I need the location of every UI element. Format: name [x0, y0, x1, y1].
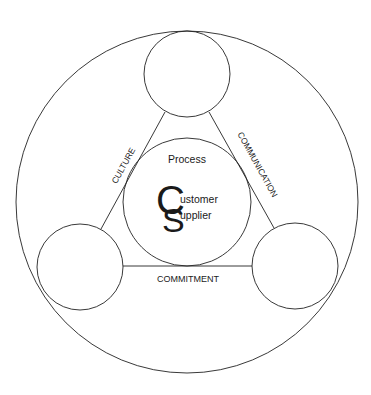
communication-label: COMMUNICATION [236, 130, 280, 199]
right-node-circle [252, 223, 338, 309]
cs-logo: C S ustomer upplier [156, 178, 218, 239]
customer-supplier-diagram: Process C S ustomer upplier CULTURE COMM… [0, 0, 371, 395]
culture-label: CULTURE [109, 146, 137, 186]
left-node-circle [37, 224, 123, 310]
commitment-label: COMMITMENT [157, 274, 219, 284]
logo-supplier-text: upplier [180, 209, 212, 221]
process-label: Process [168, 153, 206, 165]
logo-customer-text: ustomer [180, 193, 218, 205]
top-node-circle [144, 31, 230, 117]
